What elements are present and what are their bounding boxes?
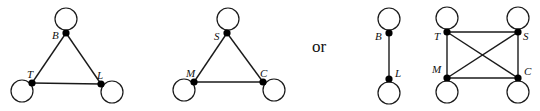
node-M [443,74,450,81]
self-loop-M [436,81,458,103]
graph-square-TSMC: TSMC [431,7,532,103]
edge-S-M [194,33,227,82]
self-loop-B [55,8,77,30]
node-label-L: L [394,67,401,79]
node-S [223,29,230,36]
node-label-S: S [523,30,529,42]
node-L [385,75,392,82]
node-T [443,28,450,35]
edge-B-L [66,33,101,84]
node-label-S: S [214,30,220,42]
node-label-T: T [27,68,34,80]
graphs-layer: BTLSMCBLTSMC [11,7,532,104]
self-loop-S [217,8,239,30]
node-T [28,79,35,86]
node-label-M: M [185,67,196,79]
self-loop-B [378,8,400,30]
node-label-M: M [431,63,442,75]
node-label-C: C [524,65,532,77]
node-label-T: T [434,30,441,42]
or-connector-text: or [312,37,327,56]
self-loop-T [436,7,458,29]
graph-triangle-SMC: SMC [173,8,285,101]
node-B [385,29,392,36]
node-C [259,78,266,85]
node-label-C: C [260,67,268,79]
node-M [190,78,197,85]
node-label-L: L [96,69,103,81]
graph-diagram: BTLSMCBLTSMC or [0,0,540,111]
node-C [514,74,521,81]
self-loop-S [507,7,529,29]
node-label-B: B [375,30,382,42]
node-label-B: B [52,29,59,41]
edge-S-C [227,33,263,82]
self-loop-C [507,81,529,103]
node-S [514,28,521,35]
self-loop-L [378,82,400,104]
graph-triangle-BTL: BTL [11,8,123,103]
graph-pair-BL: BL [375,8,401,104]
edge-B-T [32,33,66,83]
node-L [97,80,104,87]
node-B [62,29,69,36]
edge-T-L [32,83,101,84]
